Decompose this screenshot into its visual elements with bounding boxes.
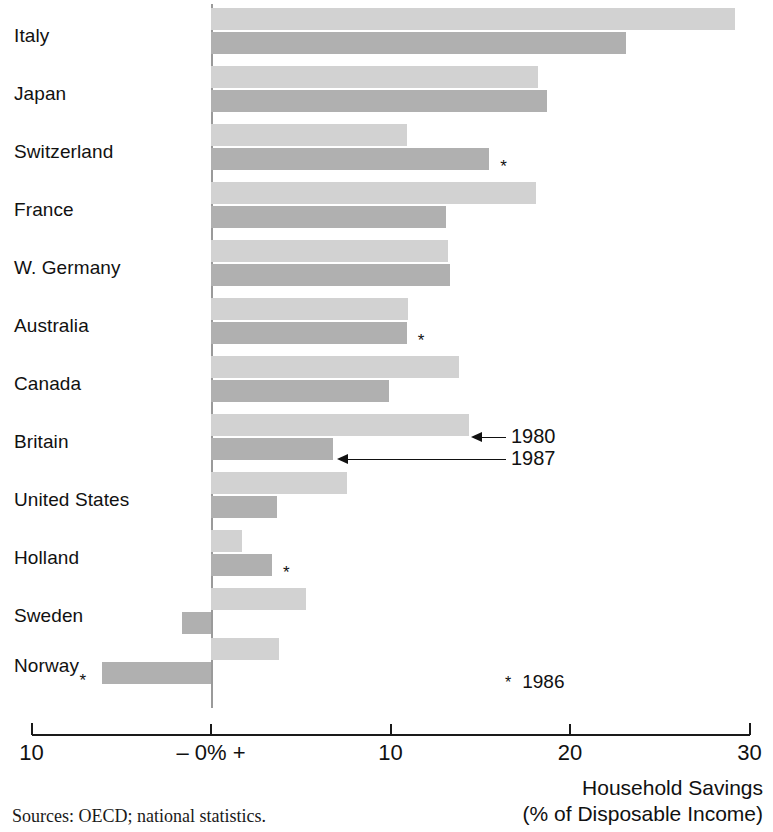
x-axis-tick-label: – 0% + <box>176 742 245 764</box>
plot-area: **** 1980 1987 *1986 <box>0 0 773 712</box>
bar-sweden-1980 <box>211 588 306 610</box>
footnote-legend: *1986 <box>505 672 565 692</box>
bar-italy-1987 <box>211 32 626 54</box>
x-axis-tick-label: 20 <box>558 742 582 764</box>
bar-france-1987 <box>211 206 446 228</box>
bar-france-1980 <box>211 182 536 204</box>
x-axis-tick-label: 30 <box>737 742 761 764</box>
bar-w-germany-1980 <box>211 240 448 262</box>
bar-holland-1980 <box>211 530 242 552</box>
bar-australia-1980 <box>211 298 408 320</box>
callout-label-1987: 1987 <box>511 448 556 468</box>
bar-switzerland-1980 <box>211 124 407 146</box>
bar-japan-1980 <box>211 66 538 88</box>
x-axis-tick <box>569 724 571 735</box>
bar-sweden-1987 <box>182 612 211 634</box>
bar-japan-1987 <box>211 90 547 112</box>
x-axis-title-line1: Household Savings <box>523 775 763 801</box>
savings-bar-chart: ItalyJapanSwitzerlandFranceW. GermanyAus… <box>0 0 773 832</box>
bar-united-states-1980 <box>211 472 347 494</box>
x-axis-tick-label: 10 <box>19 742 43 764</box>
x-axis-title-line2: (% of Disposable Income) <box>523 801 763 827</box>
callout-label-1980: 1980 <box>511 426 556 446</box>
footnote-star-icon: * <box>500 158 507 175</box>
x-axis: 10– 0% +102030 <box>0 712 773 772</box>
bar-norway-1987 <box>102 662 211 684</box>
x-axis-tick <box>210 724 212 735</box>
callout-arrow-1987 <box>337 454 348 464</box>
bar-united-states-1987 <box>211 496 277 518</box>
bar-britain-1980 <box>211 414 469 436</box>
callout-line-1980 <box>482 437 506 438</box>
bar-canada-1980 <box>211 356 459 378</box>
footnote-star-icon: * <box>505 674 511 691</box>
x-axis-tick <box>390 724 392 735</box>
bar-italy-1980 <box>211 8 735 30</box>
x-axis-tick <box>31 723 33 735</box>
callout-arrow-1980 <box>471 432 482 442</box>
x-axis-tick <box>749 723 751 735</box>
footnote-star-icon: * <box>80 672 87 689</box>
footnote-star-icon: * <box>418 332 425 349</box>
footnote-star-icon: * <box>283 564 290 581</box>
source-note: Sources: OECD; national statistics. <box>12 806 266 826</box>
bar-switzerland-1987 <box>211 148 489 170</box>
callout-line-1987 <box>348 459 506 460</box>
bar-w-germany-1987 <box>211 264 450 286</box>
bar-norway-1980 <box>211 638 279 660</box>
x-axis-tick-label: 10 <box>378 742 402 764</box>
bar-canada-1987 <box>211 380 389 402</box>
bar-australia-1987 <box>211 322 407 344</box>
x-axis-title: Household Savings (% of Disposable Incom… <box>523 775 763 827</box>
footnote-year: 1986 <box>522 671 564 692</box>
bar-holland-1987 <box>211 554 272 576</box>
bar-britain-1987 <box>211 438 333 460</box>
